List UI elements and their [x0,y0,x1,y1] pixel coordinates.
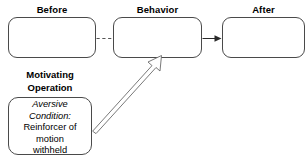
before-box [8,17,96,58]
column-header-after: After [222,4,305,15]
mo-plain-line-3: withheld [10,145,90,157]
after-box [222,17,305,58]
mo-heading-line-2: Operation [28,82,73,93]
connector-mo-to-behavior-hollow-arrow [93,56,162,134]
connector-behavior-to-after-arrowhead [215,35,222,42]
mo-plain-line-2: motion [10,134,90,146]
behavior-box [113,17,202,58]
abc-contingency-diagram: Before Behavior After Motivating Operati… [0,0,308,157]
motivating-operation-text: Aversive Condition: Reinforcer of motion… [10,99,90,157]
mo-plain-line-1: Reinforcer of [10,122,90,134]
column-header-before: Before [8,4,96,15]
mo-italic-line-2: Condition: [10,111,90,123]
motivating-operation-heading: Motivating Operation [4,69,96,94]
mo-arrow-outline [93,56,162,134]
column-header-behavior: Behavior [113,4,202,15]
mo-italic-line-1: Aversive [10,99,90,111]
mo-heading-line-1: Motivating [26,69,74,80]
